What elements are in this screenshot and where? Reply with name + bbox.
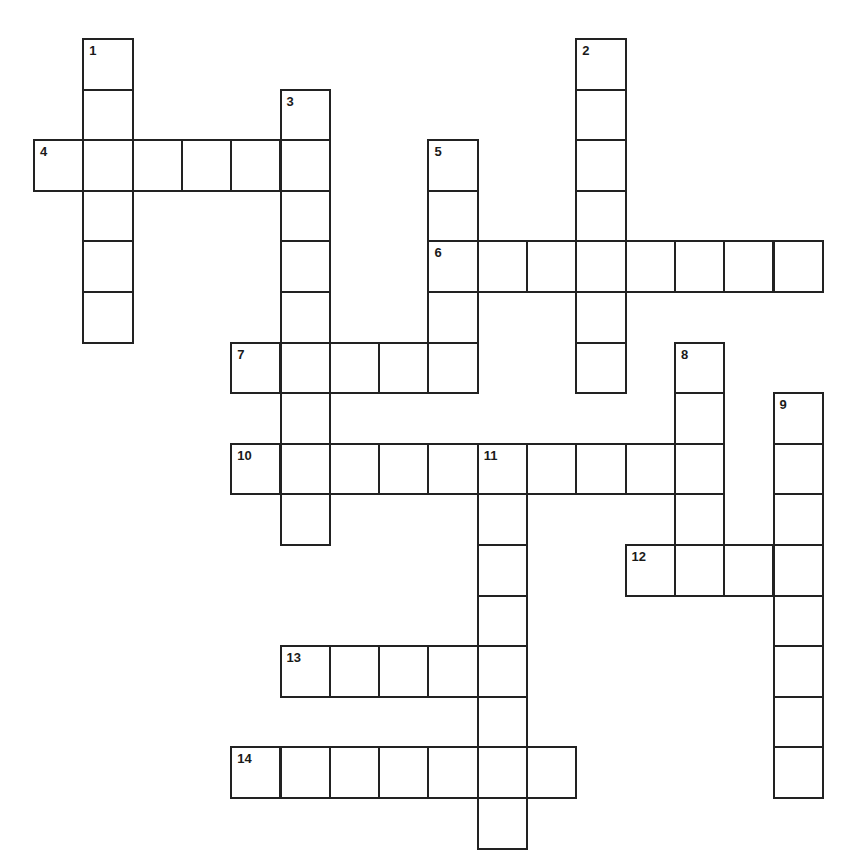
crossword-cell[interactable] xyxy=(477,696,528,749)
crossword-cell[interactable] xyxy=(329,645,380,698)
crossword-cell[interactable]: 14 xyxy=(230,746,281,799)
crossword-cell[interactable] xyxy=(575,89,626,142)
crossword-cell[interactable]: 6 xyxy=(427,240,478,293)
crossword-cell[interactable] xyxy=(625,240,676,293)
crossword-cell[interactable]: 11 xyxy=(477,443,528,496)
crossword-cell[interactable] xyxy=(674,544,725,597)
crossword-cell[interactable] xyxy=(427,291,478,344)
crossword-cell[interactable] xyxy=(477,493,528,546)
crossword-cell[interactable] xyxy=(230,139,281,192)
crossword-cell[interactable] xyxy=(82,139,133,192)
crossword-cell[interactable] xyxy=(378,645,429,698)
clue-number: 2 xyxy=(582,44,589,57)
crossword-cell[interactable] xyxy=(82,89,133,142)
crossword-cell[interactable] xyxy=(82,291,133,344)
crossword-cell[interactable] xyxy=(773,746,824,799)
crossword-cell[interactable] xyxy=(477,746,528,799)
crossword-cell[interactable] xyxy=(625,443,676,496)
crossword-cell[interactable] xyxy=(329,746,380,799)
crossword-cell[interactable] xyxy=(280,392,331,445)
crossword-cell[interactable] xyxy=(477,544,528,597)
crossword-cell[interactable] xyxy=(477,595,528,648)
crossword-cell[interactable] xyxy=(773,493,824,546)
crossword-cell[interactable] xyxy=(575,291,626,344)
crossword-cell[interactable] xyxy=(674,392,725,445)
clue-number: 5 xyxy=(434,145,441,158)
clue-number: 9 xyxy=(780,398,787,411)
clue-number: 13 xyxy=(287,651,301,664)
crossword-cell[interactable]: 13 xyxy=(280,645,331,698)
crossword-cell[interactable] xyxy=(575,139,626,192)
crossword-cell[interactable] xyxy=(575,443,626,496)
crossword-cell[interactable] xyxy=(280,139,331,192)
crossword-cell[interactable]: 10 xyxy=(230,443,281,496)
crossword-cell[interactable] xyxy=(280,342,331,395)
crossword-cell[interactable]: 7 xyxy=(230,342,281,395)
crossword-cell[interactable] xyxy=(427,342,478,395)
crossword-cell[interactable] xyxy=(427,645,478,698)
crossword-cell[interactable] xyxy=(674,493,725,546)
clue-number: 6 xyxy=(434,246,441,259)
crossword-cell[interactable] xyxy=(723,544,774,597)
crossword-cell[interactable] xyxy=(280,240,331,293)
crossword-cell[interactable] xyxy=(378,342,429,395)
crossword-cell[interactable] xyxy=(773,443,824,496)
clue-number: 8 xyxy=(681,348,688,361)
crossword-cell[interactable] xyxy=(773,645,824,698)
crossword-cell[interactable] xyxy=(378,443,429,496)
crossword-cell[interactable] xyxy=(773,595,824,648)
clue-number: 12 xyxy=(632,550,646,563)
crossword-cell[interactable] xyxy=(329,342,380,395)
crossword-cell[interactable] xyxy=(575,190,626,243)
crossword-cell[interactable] xyxy=(378,746,429,799)
crossword-cell[interactable] xyxy=(280,493,331,546)
crossword-cell[interactable] xyxy=(674,443,725,496)
crossword-cell[interactable]: 9 xyxy=(773,392,824,445)
crossword-cell[interactable] xyxy=(427,746,478,799)
crossword-cell[interactable] xyxy=(674,240,725,293)
crossword-cell[interactable] xyxy=(477,645,528,698)
crossword-cell[interactable] xyxy=(280,443,331,496)
clue-number: 11 xyxy=(484,449,498,462)
crossword-cell[interactable] xyxy=(526,746,577,799)
crossword-cell[interactable] xyxy=(773,240,824,293)
crossword-cell[interactable] xyxy=(181,139,232,192)
crossword-cell[interactable] xyxy=(477,797,528,850)
crossword-cell[interactable] xyxy=(575,240,626,293)
crossword-cell[interactable] xyxy=(427,190,478,243)
clue-number: 4 xyxy=(40,145,47,158)
crossword-cell[interactable]: 5 xyxy=(427,139,478,192)
crossword-cell[interactable] xyxy=(773,696,824,749)
crossword-cell[interactable] xyxy=(82,240,133,293)
clue-number: 3 xyxy=(287,95,294,108)
crossword-cell[interactable] xyxy=(526,443,577,496)
crossword-cell[interactable]: 1 xyxy=(82,38,133,91)
crossword-cell[interactable]: 8 xyxy=(674,342,725,395)
crossword-cell[interactable] xyxy=(723,240,774,293)
crossword-cell[interactable]: 4 xyxy=(33,139,84,192)
crossword-cell[interactable] xyxy=(329,443,380,496)
clue-number: 7 xyxy=(237,348,244,361)
crossword-cell[interactable] xyxy=(82,190,133,243)
crossword-cell[interactable]: 12 xyxy=(625,544,676,597)
crossword-cell[interactable] xyxy=(773,544,824,597)
crossword-cell[interactable] xyxy=(132,139,183,192)
crossword-cell[interactable] xyxy=(280,291,331,344)
crossword-cell[interactable] xyxy=(575,342,626,395)
crossword-cell[interactable] xyxy=(526,240,577,293)
crossword-cell[interactable] xyxy=(280,190,331,243)
crossword-cell[interactable] xyxy=(427,443,478,496)
crossword-cell[interactable]: 3 xyxy=(280,89,331,142)
crossword-grid: 1234567891011121314 xyxy=(0,0,858,862)
clue-number: 10 xyxy=(237,449,251,462)
clue-number: 1 xyxy=(89,44,96,57)
crossword-cell[interactable] xyxy=(477,240,528,293)
crossword-cell[interactable] xyxy=(280,746,331,799)
clue-number: 14 xyxy=(237,752,251,765)
crossword-cell[interactable]: 2 xyxy=(575,38,626,91)
